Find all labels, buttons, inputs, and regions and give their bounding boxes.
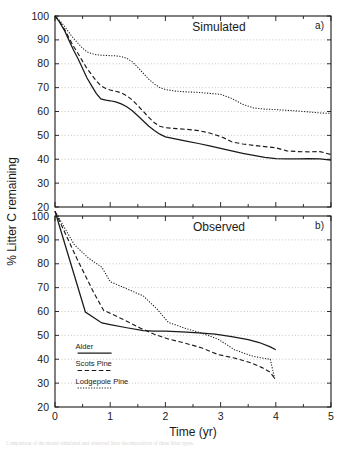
ytick-label-60: 60 (37, 105, 49, 117)
xtick-label-2: 2 (162, 410, 168, 422)
ytick-label-50: 50 (37, 329, 49, 341)
ytick-label-70: 70 (37, 81, 49, 93)
xtick-label-1: 1 (107, 410, 113, 422)
figure-container: 2030405060708090100Simulateda)2030405060… (0, 0, 347, 455)
panel-title-2: Observed (193, 220, 245, 234)
y-axis-title: % Litter C remaining (5, 157, 19, 266)
series-line-lodgepole-pine-panel2 (55, 211, 275, 379)
panel-title-1: Simulated (192, 20, 245, 34)
xtick-label-3: 3 (218, 410, 224, 422)
ytick-label-80: 80 (37, 257, 49, 269)
series-line-scots-pine-panel1 (55, 16, 331, 154)
legend-label-0: Alder (76, 342, 94, 351)
legend-label-1: Scots Pine (76, 359, 112, 368)
ytick-label-40: 40 (37, 353, 49, 365)
ytick-label-80: 80 (37, 57, 49, 69)
ytick-label-70: 70 (37, 281, 49, 293)
ytick-label-40: 40 (37, 153, 49, 165)
ytick-label-60: 60 (37, 305, 49, 317)
ytick-label-90: 90 (37, 233, 49, 245)
x-axis-title: Time (yr) (169, 425, 217, 439)
ytick-label-50: 50 (37, 129, 49, 141)
figure-caption: Comparison of the model simulated and ob… (6, 440, 341, 454)
xtick-label-0: 0 (52, 410, 58, 422)
panel-label-1: a) (315, 20, 324, 31)
series-line-alder-panel1 (55, 16, 331, 160)
ytick-label-20: 20 (37, 401, 49, 413)
two-panel-line-chart: 2030405060708090100Simulateda)2030405060… (0, 0, 347, 440)
ytick-label-30: 30 (37, 177, 49, 189)
xtick-label-4: 4 (273, 410, 279, 422)
ytick-label-90: 90 (37, 33, 49, 45)
ytick-label-100: 100 (31, 10, 49, 22)
ytick-label-30: 30 (37, 377, 49, 389)
xtick-label-5: 5 (328, 410, 334, 422)
ytick-label-100: 100 (31, 210, 49, 222)
legend-label-2: Lodgepole Pine (76, 377, 129, 386)
panel-label-2: b) (315, 220, 324, 231)
